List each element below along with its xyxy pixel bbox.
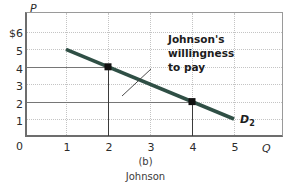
y-tick-label-5: 5 xyxy=(0,46,23,57)
x-tick-label-2: 2 xyxy=(94,142,124,153)
curve-label-d2: D2 xyxy=(240,113,255,128)
annotation-line-1: Johnson's xyxy=(168,33,234,47)
x-tick-label-3: 3 xyxy=(136,142,166,153)
y-tick-label-1: 1 xyxy=(0,116,23,127)
demand-curve-figure: P $6 5 4 3 2 1 0 1 2 3 4 5 Q xyxy=(0,0,291,184)
annotation-line-2: willingness xyxy=(168,47,234,61)
x-tick-label-4: 4 xyxy=(178,142,208,153)
annotation-willingness-to-pay: Johnson's willingness to pay xyxy=(168,33,234,75)
x-tick-label-1: 1 xyxy=(52,142,82,153)
x-axis-name: Q xyxy=(262,142,271,155)
caption-panel-label: (b) xyxy=(0,155,291,170)
y-tick-label-2: 2 xyxy=(0,99,23,110)
data-point-marker-4-2 xyxy=(189,98,196,105)
data-point-marker-2-4 xyxy=(105,63,112,70)
y-tick-label-4: 4 xyxy=(0,64,23,75)
annotation-line-3: to pay xyxy=(168,61,234,75)
x-tick-label-5: 5 xyxy=(220,142,250,153)
y-tick-label-0: 0 xyxy=(0,141,23,152)
figure-caption: (b) Johnson xyxy=(0,155,291,184)
curve-label-subscript: 2 xyxy=(249,119,255,128)
curve-label-letter: D xyxy=(240,113,249,126)
caption-name: Johnson xyxy=(0,170,291,185)
y-tick-label-6: $6 xyxy=(0,28,23,39)
y-tick-label-3: 3 xyxy=(0,81,23,92)
